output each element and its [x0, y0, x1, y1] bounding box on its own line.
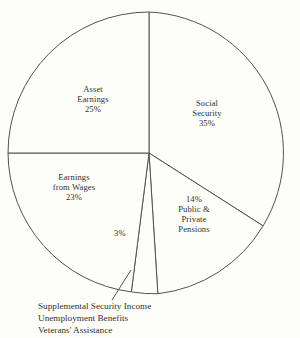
pie-label-earnings-from-wages-line2: from Wages	[28, 182, 120, 192]
pie-label-public-private-pensions-line1: Public &	[158, 204, 230, 214]
pie-label-asset-earnings-percent: 25%	[58, 104, 128, 114]
pie-label-small-programs-percent: 3%	[114, 228, 138, 238]
pie-slice-asset-earnings[interactable]	[8, 12, 149, 153]
pie-label-asset-earnings: Asset Earnings 25%	[58, 84, 128, 114]
pie-label-public-private-pensions-percent: 14%	[158, 194, 230, 204]
pie-label-earnings-from-wages-line1: Earnings	[28, 172, 120, 182]
footnote-annotation: Supplemental Security Income Unemploymen…	[38, 301, 278, 336]
pie-label-asset-earnings-line2: Earnings	[58, 94, 128, 104]
pie-label-earnings-from-wages: Earnings from Wages 23%	[28, 172, 120, 202]
footnote-line-3: Veterans' Assistance	[38, 325, 278, 337]
pie-label-social-security-line1: Social	[172, 98, 242, 108]
pie-label-social-security-line2: Security	[172, 108, 242, 118]
pie-chart: Social Security 35% Asset Earnings 25% E…	[0, 0, 300, 338]
pie-label-public-private-pensions: 14% Public & Private Pensions	[158, 194, 230, 235]
pie-chart-graphic	[0, 0, 300, 338]
pie-label-social-security: Social Security 35%	[172, 98, 242, 128]
pie-label-asset-earnings-line1: Asset	[58, 84, 128, 94]
pie-label-social-security-percent: 35%	[172, 118, 242, 128]
pie-label-public-private-pensions-line2: Private	[158, 214, 230, 224]
pie-label-small-programs: 3%	[114, 228, 138, 238]
pie-label-public-private-pensions-line3: Pensions	[158, 224, 230, 234]
pie-label-earnings-from-wages-percent: 23%	[28, 192, 120, 202]
footnote-line-2: Unemployment Benefits	[38, 313, 278, 325]
footnote-line-1: Supplemental Security Income	[38, 301, 278, 313]
